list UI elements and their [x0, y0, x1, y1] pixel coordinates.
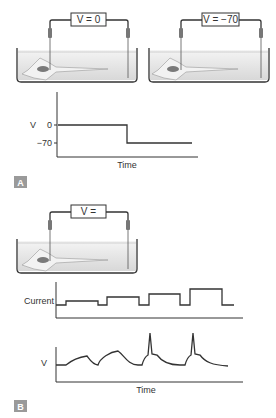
- setup-v-minus70: V = −70: [149, 13, 269, 82]
- membrane-voltage-trace: [56, 333, 228, 366]
- y-axis-label: Current: [24, 296, 55, 306]
- y-axis-label: V: [30, 120, 36, 130]
- x-axis-label: Time: [117, 160, 137, 170]
- current-plot: Current: [24, 282, 243, 318]
- current-step-trace: [56, 289, 234, 305]
- setup-b: V =: [17, 205, 137, 273]
- voltage-plot: V Time: [41, 333, 243, 395]
- setup-v0: V = 0: [17, 13, 137, 82]
- x-axis-label: Time: [136, 385, 156, 395]
- y-axis-label: V: [41, 358, 47, 368]
- voltage-label: V = −70: [203, 14, 238, 25]
- y-tick-minus70: −70: [37, 138, 52, 148]
- voltage-label: V =: [81, 206, 96, 217]
- panel-label-a: A: [17, 178, 24, 188]
- voltage-step-trace: [58, 125, 192, 143]
- panel-label-b: B: [17, 402, 24, 412]
- y-tick-0: 0: [47, 120, 52, 130]
- panel-a-plot: V 0 −70 Time: [30, 92, 198, 170]
- figure: V = 0 V = −70 V 0 −70 Time A: [0, 0, 276, 418]
- voltage-label: V = 0: [77, 14, 101, 25]
